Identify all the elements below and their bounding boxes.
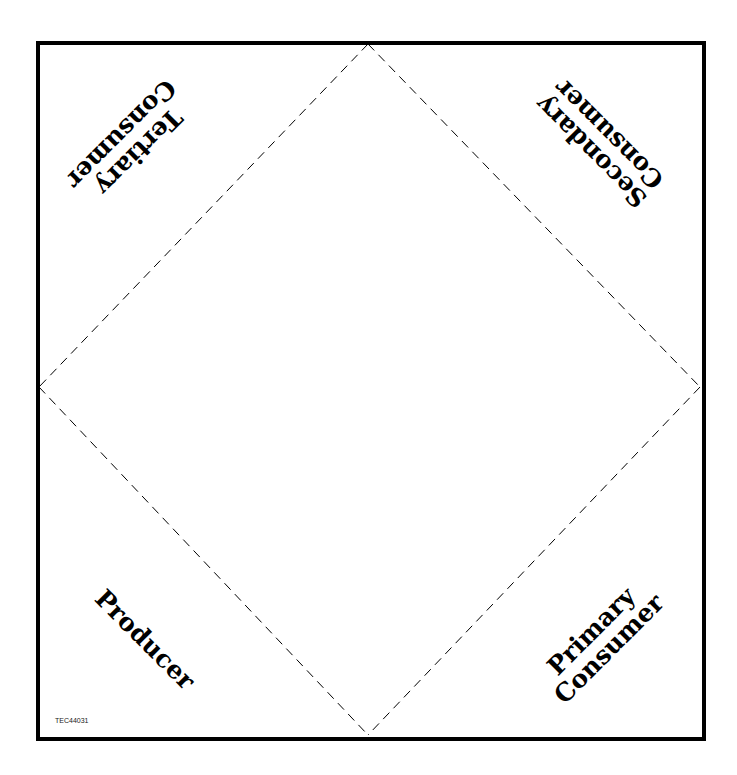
product-code: TEC44031 — [55, 717, 88, 724]
